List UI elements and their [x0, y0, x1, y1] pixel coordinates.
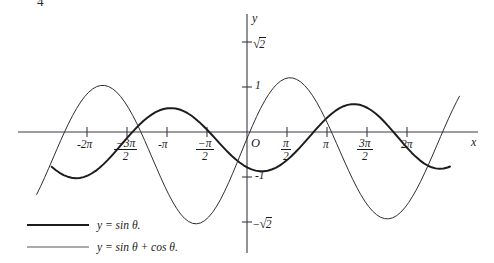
fraction-denominator: 2 [357, 149, 373, 163]
fraction-numerator: π [281, 137, 291, 149]
fraction-numerator: −π [196, 137, 214, 149]
trig-graph-figure: 4 [0, 0, 494, 263]
curve-sum [37, 78, 460, 224]
x-tick-label-neg-3pi-over-2: −3π 2 [114, 138, 137, 164]
fraction-numerator: 3π [357, 137, 373, 149]
fraction-denominator: 2 [196, 149, 214, 163]
legend-line-placeholder-sum [26, 242, 88, 252]
fraction-denominator: 2 [281, 149, 291, 163]
x-tick-label-neg-pi: -π [158, 139, 168, 151]
y-axis-label: y [252, 12, 257, 24]
legend-item-sin-plus-cos: y = sin θ + cos θ. [26, 236, 256, 258]
x-tick-label-pi-over-2: π 2 [281, 138, 291, 164]
y-tick-label-sqrt2: √2 [253, 35, 266, 51]
legend-label-sin-plus-cos: y = sin θ + cos θ. [97, 241, 178, 253]
x-tick-label-neg-pi-over-2: −π 2 [196, 138, 214, 164]
legend-label-sin: y = sin θ. [97, 219, 140, 231]
y-tick-label-neg-1: -1 [255, 170, 265, 182]
y-tick-label-1: 1 [255, 80, 261, 92]
radicand: 2 [259, 37, 266, 50]
x-axis-label: x [471, 136, 476, 148]
x-tick-label-pi: π [323, 139, 329, 151]
legend-item-sin: y = sin θ. [26, 214, 256, 236]
radicand: 2 [266, 217, 273, 230]
x-tick-label-2pi: 2π [401, 139, 413, 151]
origin-label: O [251, 137, 260, 150]
fraction-denominator: 2 [114, 149, 137, 163]
legend: y = sin θ. y = sin θ + cos θ. [26, 214, 256, 258]
fraction-numerator: −3π [114, 137, 137, 149]
x-tick-label-3pi-over-2: 3π 2 [357, 138, 373, 164]
legend-line-placeholder-sin [26, 220, 88, 230]
x-tick-label-neg-2pi: -2π [77, 139, 92, 151]
